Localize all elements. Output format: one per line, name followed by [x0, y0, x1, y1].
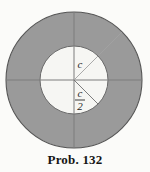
figure-caption: Prob. 132 [0, 150, 150, 172]
inner-radius-denominator-label: 2 [77, 100, 83, 112]
annulus-diagram: c c 2 [0, 0, 150, 150]
outer-radius-label: c [78, 58, 83, 70]
figure-container: c c 2 [0, 0, 150, 150]
inner-radius-numerator-label: c [78, 87, 83, 99]
